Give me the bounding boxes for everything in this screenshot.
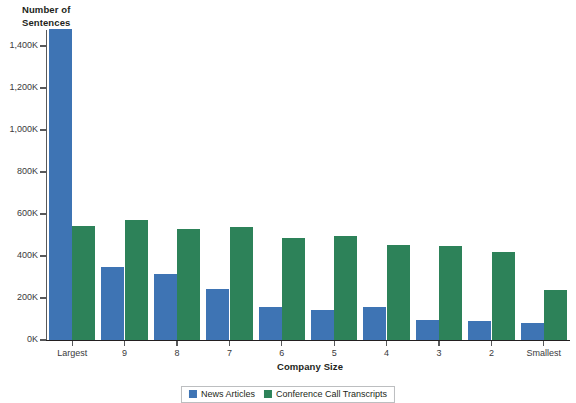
bar xyxy=(101,267,124,340)
x-axis-tick xyxy=(438,341,439,346)
y-axis-tick-label: 1,000K xyxy=(0,124,38,134)
legend-label: Conference Call Transcripts xyxy=(276,389,387,399)
bar xyxy=(49,29,72,340)
x-axis-tick xyxy=(543,341,544,346)
bar xyxy=(544,290,567,340)
bar xyxy=(177,229,200,340)
bar xyxy=(439,246,462,340)
bar xyxy=(334,236,357,340)
x-axis-tick-label: Smallest xyxy=(504,348,576,358)
x-axis-tick xyxy=(124,341,125,346)
bar xyxy=(387,245,410,340)
x-axis-title-text: Company Size xyxy=(277,361,343,372)
bar xyxy=(282,238,305,340)
bar xyxy=(154,274,177,340)
bar xyxy=(125,220,148,340)
x-axis-tick xyxy=(334,341,335,346)
bar xyxy=(311,310,334,340)
legend-swatch-icon xyxy=(189,390,197,398)
bar xyxy=(363,307,386,340)
legend-item[interactable]: Conference Call Transcripts xyxy=(264,389,387,399)
bar xyxy=(206,289,229,340)
chart-legend: News ArticlesConference Call Transcripts xyxy=(181,386,395,403)
bar xyxy=(468,321,491,340)
y-axis-title: Number of Sentences xyxy=(22,4,70,29)
y-axis-tick-label: 800K xyxy=(0,166,38,176)
x-axis-tick xyxy=(229,341,230,346)
y-axis-tick-label: 600K xyxy=(0,208,38,218)
bars-layer xyxy=(46,29,570,340)
legend-label: News Articles xyxy=(201,389,255,399)
y-axis-tick-label: 200K xyxy=(0,292,38,302)
y-axis-tick-label: 1,200K xyxy=(0,82,38,92)
bar xyxy=(521,323,544,340)
x-axis-tick xyxy=(386,341,387,346)
x-axis-tick xyxy=(281,341,282,346)
y-axis-tick-label: 0K xyxy=(0,334,38,344)
x-axis-title: Company Size xyxy=(0,361,576,372)
x-axis-tick xyxy=(491,341,492,346)
legend-swatch-icon xyxy=(264,390,272,398)
bar xyxy=(416,320,439,340)
bar xyxy=(230,227,253,340)
y-axis-tick-label: 400K xyxy=(0,250,38,260)
y-axis-tick-label: 1,400K xyxy=(0,40,38,50)
bar xyxy=(72,226,95,340)
bar xyxy=(259,307,282,340)
x-axis-tick xyxy=(176,341,177,346)
bar xyxy=(492,252,515,340)
legend-item[interactable]: News Articles xyxy=(189,389,255,399)
x-axis-tick xyxy=(72,341,73,346)
